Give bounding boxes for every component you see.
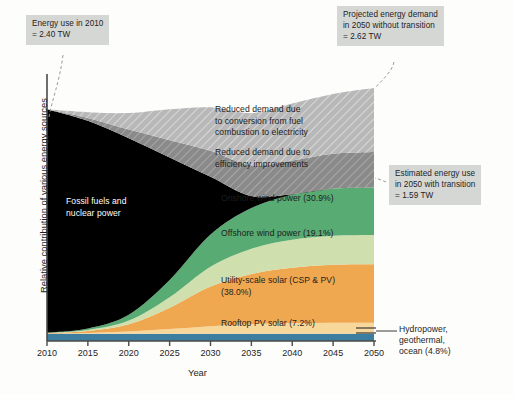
- annotation-estimated-use-2050: Estimated energy use in 2050 with transi…: [389, 165, 481, 205]
- x-axis-tick-label: 2035: [234, 348, 268, 358]
- x-axis-tick-label: 2010: [30, 348, 64, 358]
- leader-line-projected-demand-2050: [375, 62, 394, 88]
- band-label-reduced-demand-efficiency: Reduced demand due to efficiency improve…: [215, 147, 310, 170]
- annotation-energy-use-2010: Energy use in 2010 = 2.40 TW: [26, 15, 109, 45]
- y-axis-title: Relative contribution of various energy …: [38, 71, 49, 321]
- band-label-rooftop-pv-solar: Rooftop PV solar (7.2%): [221, 318, 315, 330]
- x-axis-tick-label: 2050: [357, 348, 391, 358]
- x-axis-tick-label: 2020: [112, 348, 146, 358]
- leader-line-energy-use-2010: [49, 55, 63, 117]
- x-axis-tick-label: 2030: [194, 348, 228, 358]
- x-axis-tick-label: 2045: [316, 348, 350, 358]
- band-label-offshore-wind: Offshore wind power (19.1%): [221, 228, 334, 240]
- chart-figure: Energy use in 2010 = 2.40 TW Projected e…: [0, 0, 514, 395]
- band-label-utility-scale-solar: Utility-scale solar (CSP & PV) (38.0%): [221, 275, 335, 298]
- band-label-hydropower-geothermal-ocean: Hydropower, geothermal, ocean (4.8%): [399, 324, 451, 358]
- band-label-onshore-wind: Onshore wind power (30.9%): [221, 193, 334, 205]
- x-axis-tick-label: 2025: [153, 348, 187, 358]
- band-label-reduced-demand-conversion: Reduced demand due to conversion from fu…: [215, 104, 308, 139]
- band-label-fossil-fuels-nuclear: Fossil fuels and nuclear power: [66, 196, 127, 219]
- area-band-hydropower-geothermal-ocean: [47, 334, 374, 341]
- leader-line-estimated-use-2050: [375, 178, 386, 182]
- annotation-projected-demand-2050: Projected energy demand in 2050 without …: [337, 6, 444, 46]
- x-axis-tick-label: 2040: [275, 348, 309, 358]
- x-axis-title: Year: [188, 367, 207, 378]
- x-axis-tick-label: 2015: [71, 348, 105, 358]
